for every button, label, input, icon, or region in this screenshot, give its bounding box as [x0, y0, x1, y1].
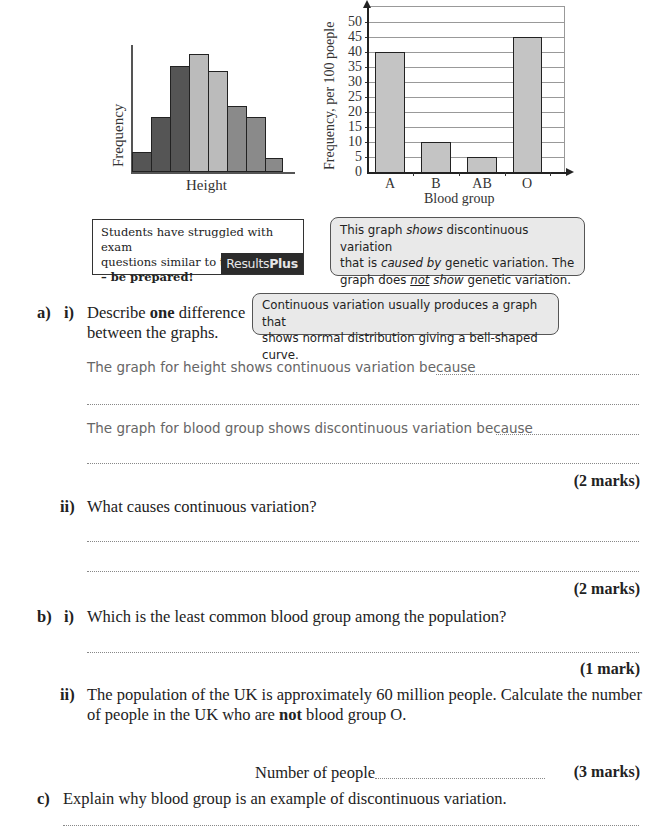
y-tick-label: 10: [340, 135, 362, 149]
hist-bar: [246, 117, 266, 172]
question-c-label: c): [37, 789, 50, 809]
bc-x-label: Blood group: [424, 191, 494, 207]
bar-b: [421, 142, 451, 173]
x-tick: [550, 172, 551, 176]
answer-line[interactable]: [87, 571, 639, 572]
rp-line: Students have struggled with exam: [101, 225, 303, 255]
callout-line: Continuous variation usually produces a …: [262, 297, 549, 330]
answer-field-number-of-people[interactable]: [375, 778, 545, 779]
bar-a: [375, 52, 405, 173]
question-b-i-label: i): [64, 607, 74, 627]
hist-x-axis: [131, 172, 295, 174]
y-tick-label: 20: [340, 105, 362, 119]
bc-top-edge: [368, 6, 565, 7]
x-cat-b: B: [416, 176, 456, 192]
x-tick: [413, 172, 414, 176]
bar-ab: [467, 157, 497, 173]
bc-y-axis: [367, 6, 369, 173]
marks-b-ii: (3 marks): [574, 763, 640, 781]
answer-hint-blood: The graph for blood group shows disconti…: [87, 420, 533, 436]
x-axis-arrow-icon: [566, 168, 574, 176]
bc-x-axis: [367, 172, 567, 174]
callout-line: This graph shows discontinuous variation: [340, 222, 575, 255]
callout-line: that is caused by genetic variation. The: [340, 255, 575, 272]
question-b-ii-text: The population of the UK is approximatel…: [87, 685, 647, 725]
hist-bar: [265, 158, 283, 172]
hist-bar: [132, 152, 152, 172]
y-tick-label: 0: [340, 165, 362, 179]
question-b-i-text: Which is the least common blood group am…: [87, 607, 506, 627]
answer-line[interactable]: [63, 825, 639, 826]
x-cat-ab: AB: [462, 176, 502, 192]
y-tick-label: 30: [340, 75, 362, 89]
x-tick: [459, 172, 460, 176]
hist-bar: [227, 106, 247, 172]
logo-results: Results: [226, 256, 269, 271]
bc-y-label: Frequency, per 100 poeple: [322, 22, 338, 170]
y-tick-label: 50: [340, 15, 362, 29]
question-a-i-label: i): [64, 303, 74, 323]
hist-bar: [170, 66, 190, 172]
y-tick-label: 5: [340, 150, 362, 164]
hist-x-label: Height: [186, 177, 227, 194]
bar-o: [513, 37, 542, 173]
answer-line[interactable]: [436, 374, 639, 375]
callout-genetic-variation: This graph shows discontinuous variation…: [330, 217, 585, 276]
x-cat-o: O: [507, 176, 547, 192]
answer-line[interactable]: [87, 541, 639, 542]
logo-plus: Plus: [269, 256, 298, 271]
y-tick-label: 40: [340, 45, 362, 59]
answer-line[interactable]: [87, 463, 639, 464]
question-a-ii-text: What causes continuous variation?: [87, 497, 317, 517]
y-tick-label: 15: [340, 120, 362, 134]
callout-line: graph does not show genetic variation.: [340, 272, 575, 289]
answer-line[interactable]: [87, 404, 639, 405]
hist-bar: [208, 71, 228, 172]
y-tick-label: 45: [340, 30, 362, 44]
callout-continuous-variation: Continuous variation usually produces a …: [252, 293, 559, 335]
x-cat-a: A: [370, 176, 410, 192]
question-a-i-text: Describe one difference between the grap…: [87, 303, 245, 343]
question-b-label: b): [37, 607, 52, 627]
question-a-ii-label: ii): [60, 497, 75, 517]
question-b-ii-label: ii): [60, 685, 75, 705]
y-axis-arrow-icon: [363, 0, 371, 8]
y-tick-label: 35: [340, 60, 362, 74]
answer-label-number-of-people: Number of people: [255, 763, 375, 783]
marks-b-i: (1 mark): [580, 660, 640, 678]
results-plus-logo: ResultsPlus: [221, 253, 303, 274]
answer-line[interactable]: [87, 652, 639, 653]
y-tick-label: 25: [340, 90, 362, 104]
hist-y-label: Frequency: [110, 104, 127, 167]
hist-bar: [189, 54, 209, 172]
bc-right-edge: [564, 6, 565, 172]
marks-a-i: (2 marks): [574, 472, 640, 490]
gridline: [368, 22, 565, 23]
marks-a-ii: (2 marks): [574, 580, 640, 598]
hist-bar: [151, 117, 171, 172]
answer-hint-height: The graph for height shows continuous va…: [87, 359, 476, 375]
results-plus-box: Students have struggled with exam questi…: [92, 219, 304, 275]
question-c-text: Explain why blood group is an example of…: [63, 789, 507, 809]
x-tick: [505, 172, 506, 176]
answer-line[interactable]: [496, 434, 639, 435]
question-a-label: a): [37, 303, 51, 323]
